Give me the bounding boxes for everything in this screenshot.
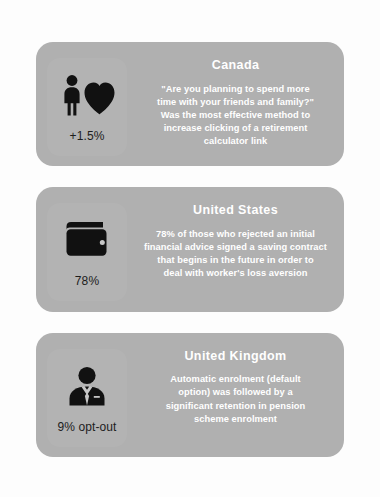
icon-column: 78%: [36, 187, 138, 311]
text-column: United States 78% of those who rejected …: [138, 187, 344, 311]
stat-value: 78%: [75, 275, 99, 287]
infographic-board: +1.5% Canada "Are you planning to spend …: [0, 0, 380, 497]
stat-value: 9% opt-out: [57, 421, 116, 433]
country-description: Automatic enrolment (default option) was…: [166, 373, 306, 426]
businessman-icon: [57, 363, 117, 409]
stat-value: +1.5%: [70, 130, 105, 142]
person-and-heart-icon: [57, 72, 117, 118]
country-description: 78% of those who rejected an initial fin…: [144, 228, 327, 281]
text-column: Canada "Are you planning to spend more t…: [138, 42, 344, 166]
country-card-canada[interactable]: +1.5% Canada "Are you planning to spend …: [36, 42, 344, 166]
wallet-icon: [57, 217, 117, 263]
country-card-united-states[interactable]: 78% United States 78% of those who rejec…: [36, 187, 344, 311]
icon-column: +1.5%: [36, 42, 138, 166]
country-title: United States: [193, 204, 278, 217]
country-card-united-kingdom[interactable]: 9% opt-out United Kingdom Automatic enro…: [36, 333, 344, 457]
country-title: United Kingdom: [184, 350, 286, 363]
country-title: Canada: [212, 59, 260, 72]
country-description: "Are you planning to spend more time wit…: [157, 83, 314, 149]
icon-column: 9% opt-out: [36, 333, 138, 457]
text-column: United Kingdom Automatic enrolment (defa…: [138, 333, 344, 457]
